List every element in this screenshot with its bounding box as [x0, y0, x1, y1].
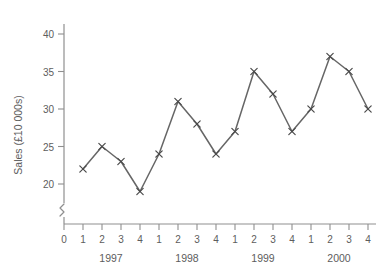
chart-canvas: 40 35 30 25 20 Sales (£10 000s) [0, 0, 386, 274]
x-tick-label-2000-q4: 4 [365, 234, 371, 245]
x-tick-label-1999-q3: 3 [270, 234, 276, 245]
x-tick-label-2000-q3: 3 [346, 234, 352, 245]
data-point-marker [137, 188, 143, 194]
data-point-marker [346, 68, 352, 74]
x-tick-label-1999-q4: 4 [289, 234, 295, 245]
data-point-marker [80, 166, 86, 172]
x-tick-label-1997-q4: 4 [137, 234, 143, 245]
x-tick-label-1998-q3: 3 [194, 234, 200, 245]
data-point-marker [289, 128, 295, 134]
x-tick-label-1998-q4: 4 [213, 234, 219, 245]
x-tick-label-1998-q1: 1 [156, 234, 162, 245]
year-label-1999: 1999 [251, 252, 275, 264]
axis-break-icon [60, 204, 64, 216]
sales-line-chart: 40 35 30 25 20 Sales (£10 000s) [0, 0, 386, 274]
x-tick-label-2000-q1: 1 [308, 234, 314, 245]
y-tick-label-20: 20 [43, 179, 55, 190]
data-point-marker [194, 121, 200, 127]
x-tick-label-1999-q2: 2 [251, 234, 257, 245]
x-tick-label-1997-q1: 1 [80, 234, 86, 245]
y-tick-marks [58, 34, 64, 184]
data-point-marker [156, 151, 162, 157]
y-tick-label-30: 30 [43, 104, 55, 115]
year-label-1997: 1997 [99, 252, 123, 264]
x-tick-label-2000-q2: 2 [327, 234, 333, 245]
data-point-marker [213, 151, 219, 157]
y-tick-label-35: 35 [43, 67, 55, 78]
x-tick-label-1997-q2: 2 [99, 234, 105, 245]
x-tick-label-origin: 0 [61, 234, 67, 245]
data-point-marker [270, 91, 276, 97]
data-point-marker [365, 106, 371, 112]
x-tick-marks [64, 224, 368, 230]
x-tick-label-1997-q3: 3 [118, 234, 124, 245]
sales-series-line [83, 57, 368, 192]
data-point-marker [308, 106, 314, 112]
data-point-marker [118, 158, 124, 164]
y-tick-label-40: 40 [43, 29, 55, 40]
data-point-marker [175, 98, 181, 104]
x-tick-label-1999-q1: 1 [232, 234, 238, 245]
sales-series-markers [80, 53, 371, 194]
x-tick-label-1998-q2: 2 [175, 234, 181, 245]
data-point-marker [99, 143, 105, 149]
data-point-marker [327, 53, 333, 59]
year-label-2000: 2000 [327, 252, 351, 264]
y-axis-title: Sales (£10 000s) [12, 95, 24, 174]
year-label-1998: 1998 [175, 252, 199, 264]
y-tick-label-25: 25 [43, 142, 55, 153]
